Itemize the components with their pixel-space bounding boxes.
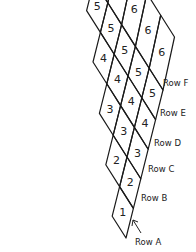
cell-number: 6 <box>145 24 152 37</box>
row-label-f: Row F <box>163 78 188 88</box>
row-label-a: Row A <box>135 237 161 247</box>
cell-number: 6 <box>131 3 138 16</box>
cell-number: 6 <box>158 46 165 59</box>
rhombus-triangle-diagram: 122333444455555666666 Row F Row E Row D … <box>0 0 196 252</box>
cell-number: 4 <box>142 117 149 130</box>
row-a-arrow-icon <box>132 220 141 233</box>
cell-number: 5 <box>149 87 156 100</box>
cell-number: 3 <box>107 103 114 116</box>
rhombus-cell <box>108 0 133 25</box>
cell-number: 5 <box>108 22 115 35</box>
row-label-c: Row C <box>148 164 174 174</box>
cell-number: 4 <box>128 95 135 108</box>
cell-number: 5 <box>94 0 101 13</box>
cell-number: 3 <box>134 147 141 160</box>
cell-number: 2 <box>113 154 120 167</box>
row-label-d: Row D <box>154 138 181 148</box>
cell-number: 5 <box>121 44 128 57</box>
cell-number: 4 <box>100 52 107 65</box>
cell-number: 2 <box>127 176 134 189</box>
cell-number: 3 <box>120 125 127 138</box>
cell-number: 4 <box>114 73 121 86</box>
row-label-e: Row E <box>160 108 186 118</box>
row-label-b: Row B <box>141 193 167 203</box>
row-labels: Row F Row E Row D Row C Row B Row A <box>135 78 188 247</box>
cell-number: 1 <box>119 206 126 219</box>
cell-number: 5 <box>135 66 142 79</box>
